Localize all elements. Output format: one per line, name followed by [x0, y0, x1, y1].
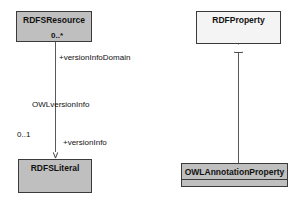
- class-name-rdf-property: RDFProperty: [197, 12, 280, 27]
- association-role-version-info-domain: +versionInfoDomain: [59, 53, 130, 62]
- class-box-rdfs-literal[interactable]: RDFSLiteral: [18, 159, 92, 193]
- class-name-rdfs-literal: RDFSLiteral: [19, 160, 91, 175]
- association-name-owl-version-info: OWLversionInfo: [32, 100, 89, 109]
- class-body-rdf-property: [197, 27, 280, 43]
- generalization-line-annotation-property: [238, 52, 239, 163]
- class-body-rdfs-literal: [19, 175, 91, 192]
- class-name-owl-annotation-property: OWLAnnotationProperty: [182, 164, 287, 179]
- class-box-rdfs-resource[interactable]: RDFSResource 0..*: [16, 11, 92, 42]
- class-box-rdf-property[interactable]: RDFProperty: [196, 11, 281, 44]
- class-attributes-compartment-owl-annotation-property: [182, 179, 287, 186]
- association-multiplicity-zero-star: 0..*: [51, 31, 63, 40]
- association-multiplicity-zero-one: 0..1: [17, 130, 30, 139]
- association-line-version-info: [55, 42, 56, 152]
- class-name-rdfs-resource: RDFSResource: [17, 12, 91, 27]
- association-role-version-info: +versionInfo: [63, 138, 107, 147]
- generalization-hollow-triangle: [234, 44, 243, 53]
- class-box-owl-annotation-property[interactable]: OWLAnnotationProperty: [181, 163, 288, 187]
- diagram-canvas: +versionInfoDomain OWLversionInfo 0..1 +…: [0, 0, 300, 202]
- class-body-rdfs-resource: 0..*: [17, 27, 91, 41]
